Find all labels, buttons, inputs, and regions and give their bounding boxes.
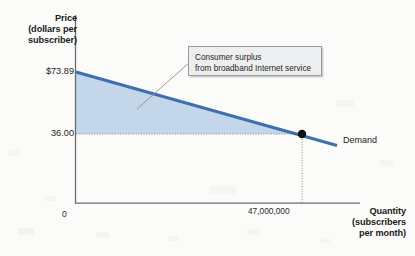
equilibrium-point: [298, 130, 306, 138]
origin-label: 0: [62, 209, 67, 219]
y-axis-title-line1: Price: [55, 13, 77, 23]
callout-line-1: Consumer surplus: [195, 52, 311, 63]
callout-line-2: from broadband Internet service: [195, 63, 311, 74]
y-tick-label-36-00: 36.00: [51, 128, 74, 139]
y-axis-title: Price (dollars per subscriber): [28, 13, 77, 46]
consumer-surplus-callout: Consumer surplus from broadband Internet…: [188, 46, 322, 76]
x-tick-label-47000000: 47,000,000: [248, 207, 290, 217]
y-tick-label-73-89: $73.89: [46, 66, 74, 77]
consumer-surplus-chart: Price (dollars per subscriber) $73.89 36…: [0, 0, 415, 256]
x-axis-title: Quantity (subscribers per month): [352, 206, 406, 240]
y-axis-title-line2: (dollars per: [28, 24, 77, 34]
x-axis-title-line1: Quantity: [369, 206, 405, 216]
x-axis-title-line2: (subscribers: [352, 217, 406, 227]
x-axis-title-line3: per month): [359, 228, 406, 238]
consumer-surplus-callout-text: Consumer surplus from broadband Internet…: [195, 52, 311, 75]
demand-curve-label: Demand: [343, 135, 377, 146]
y-axis-title-line3: subscriber): [28, 35, 77, 45]
